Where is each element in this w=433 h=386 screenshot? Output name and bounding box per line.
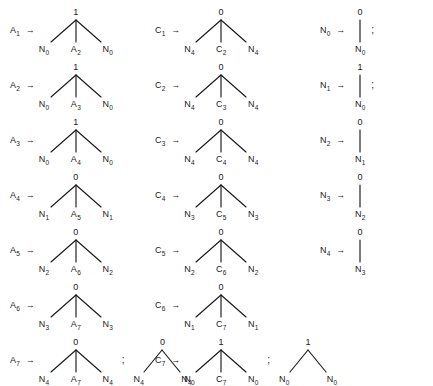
production-tree: 0N3 [349, 228, 371, 274]
tree-leaf-row: N3 [349, 265, 371, 274]
tree-edges [39, 184, 113, 208]
lhs-symbol: C5 [155, 245, 165, 255]
production-tree: 1N0A4N0 [39, 118, 113, 164]
tree-leaf-symbol: N0 [327, 375, 337, 384]
tree-edges [184, 19, 258, 43]
tree-leaf-row: N1C7N1 [184, 320, 258, 329]
lhs-symbol: A2 [10, 80, 20, 90]
production-rule: C4→0N3C5N3 [155, 173, 258, 219]
tree-root-symbol: 0 [219, 8, 224, 17]
tree-leaf-symbol: N1 [103, 210, 113, 219]
tree-leaf-row: N0N0 [279, 375, 337, 384]
tree-root-symbol: 0 [219, 118, 224, 127]
lhs-symbol: C4 [155, 190, 165, 200]
rule-left-hand-side: A7→ [10, 338, 39, 365]
tree-leaf-symbol: A4 [71, 155, 81, 164]
rewrite-arrow-icon: → [26, 191, 35, 200]
tree-leaf-symbol: N2 [355, 210, 365, 219]
production-rule: N1→1N0; [320, 63, 374, 109]
tree-edges [39, 239, 113, 263]
tree-leaf-row: N0A3N0 [39, 100, 113, 109]
tree-leaf-row: N1 [349, 155, 371, 164]
rule-left-hand-side: A3→ [10, 118, 39, 145]
tree-root-symbol: 0 [73, 338, 78, 347]
tree-leaf-symbol: N4 [248, 155, 258, 164]
tree-root-symbol: 0 [358, 173, 363, 182]
tree-leaf-symbol: N0 [103, 100, 113, 109]
tree-leaf-symbol: N4 [248, 100, 258, 109]
tree-leaf-row: N4A7N4 [39, 375, 113, 384]
tree-leaf-symbol: A2 [71, 45, 81, 54]
production-rule: C3→0N4C4N4 [155, 118, 258, 164]
tree-leaf-symbol: C4 [216, 155, 226, 164]
lhs-symbol: A4 [10, 190, 20, 200]
tree-leaf-symbol: N2 [248, 265, 258, 274]
grammar-production-sheet: A1→1N0A2N0A2→1N0A3N0A3→1N0A4N0A4→0N1A5N1… [0, 0, 433, 386]
tree-root-symbol: 1 [73, 63, 78, 72]
tree-root-symbol: 0 [219, 173, 224, 182]
lhs-symbol: A3 [10, 135, 20, 145]
tree-leaf-symbol: A5 [71, 210, 81, 219]
lhs-symbol: C2 [155, 80, 165, 90]
tree-root-symbol: 0 [73, 173, 78, 182]
tree-leaf-symbol: C7 [216, 375, 226, 384]
tree-edges [184, 184, 258, 208]
tree-leaf-symbol: C3 [216, 100, 226, 109]
rewrite-arrow-icon: → [336, 191, 345, 200]
tree-edges [349, 129, 371, 153]
production-tree: 0N3C5N3 [184, 173, 258, 219]
tree-leaf-row: N0 [349, 100, 371, 109]
lhs-symbol: C7 [155, 355, 165, 365]
tree-edges [184, 294, 258, 318]
tree-leaf-symbol: A7 [71, 320, 81, 329]
production-tree: 0N4A7N4 [39, 338, 113, 384]
tree-leaf-symbol: N3 [248, 210, 258, 219]
production-rule: A3→1N0A4N0 [10, 118, 113, 164]
tree-leaf-symbol: N4 [39, 375, 49, 384]
tree-leaf-symbol: N0 [103, 45, 113, 54]
rule-left-hand-side: A1→ [10, 8, 39, 35]
tree-leaf-symbol: N0 [39, 155, 49, 164]
rewrite-arrow-icon: → [26, 301, 35, 310]
tree-leaf-row: N2C6N2 [184, 265, 258, 274]
tree-leaf-symbol: N0 [279, 375, 289, 384]
production-rule: C6→0N1C7N1 [155, 283, 258, 329]
tree-root-symbol: 0 [358, 8, 363, 17]
rule-left-hand-side: A5→ [10, 228, 39, 255]
tree-leaf-row: N0 [349, 45, 371, 54]
rule-left-hand-side: N3→ [320, 173, 349, 200]
lhs-symbol: A7 [10, 355, 20, 365]
rewrite-arrow-icon: → [171, 191, 180, 200]
production-tree: 0N3A7N3 [39, 283, 113, 329]
tree-root-symbol: 0 [73, 283, 78, 292]
tree-leaf-row: N2A6N2 [39, 265, 113, 274]
rule-terminator: ; [371, 8, 374, 35]
tree-leaf-symbol: N1 [39, 210, 49, 219]
rewrite-arrow-icon: → [336, 81, 345, 90]
tree-leaf-row: N3C5N3 [184, 210, 258, 219]
rewrite-arrow-icon: → [336, 246, 345, 255]
rewrite-arrow-icon: → [171, 136, 180, 145]
rule-left-hand-side: N4→ [320, 228, 349, 255]
rule-left-hand-side: C1→ [155, 8, 184, 35]
tree-leaf-symbol: N2 [184, 265, 194, 274]
tree-edges [39, 349, 113, 373]
rule-left-hand-side: C2→ [155, 63, 184, 90]
tree-root-symbol: 0 [219, 283, 224, 292]
tree-leaf-symbol: N4 [184, 155, 194, 164]
tree-leaf-symbol: N0 [39, 45, 49, 54]
rewrite-arrow-icon: → [26, 356, 35, 365]
tree-leaf-symbol: N4 [248, 45, 258, 54]
lhs-symbol: A1 [10, 25, 20, 35]
rewrite-arrow-icon: → [26, 81, 35, 90]
rewrite-arrow-icon: → [336, 26, 345, 35]
rule-left-hand-side: C3→ [155, 118, 184, 145]
production-rule: C7→1N0C7N0;1N0N0 [155, 338, 337, 384]
lhs-symbol: C1 [155, 25, 165, 35]
tree-edges [39, 74, 113, 98]
tree-edges [184, 74, 258, 98]
production-tree: 1N0A3N0 [39, 63, 113, 109]
rule-left-hand-side: A2→ [10, 63, 39, 90]
production-rule: A6→0N3A7N3 [10, 283, 113, 329]
rewrite-arrow-icon: → [26, 26, 35, 35]
